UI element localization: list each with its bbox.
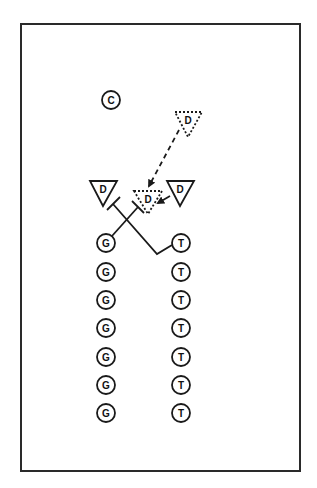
guard-marker: G: [97, 291, 115, 309]
guard-marker: G: [97, 319, 115, 337]
guard-marker: G: [97, 234, 115, 252]
svg-text:G: G: [102, 267, 110, 278]
tackle-marker: T: [172, 263, 190, 281]
svg-text:D: D: [99, 184, 106, 195]
svg-text:T: T: [178, 267, 184, 278]
defender-start-position: D: [175, 112, 202, 137]
guard-marker: G: [97, 263, 115, 281]
tackle-marker: T: [172, 348, 190, 366]
defender-right: D: [167, 181, 194, 206]
coach-label: C: [107, 95, 114, 106]
svg-text:T: T: [178, 238, 184, 249]
svg-text:D: D: [144, 194, 151, 205]
svg-text:D: D: [176, 184, 183, 195]
guards-column: G G G G G G G: [97, 234, 115, 422]
tackle-block-route: [107, 197, 172, 254]
tackle-marker: T: [172, 376, 190, 394]
drill-diagram: C D D D D G G G G G G G: [0, 0, 317, 488]
tackle-marker: T: [172, 291, 190, 309]
coach-marker: C: [102, 91, 120, 109]
defender-slide-route: [158, 196, 170, 203]
defender-left: D: [90, 181, 117, 206]
svg-text:G: G: [102, 380, 110, 391]
guard-marker: G: [97, 404, 115, 422]
tackles-column: T T T T T T T: [172, 234, 190, 422]
svg-text:G: G: [102, 408, 110, 419]
tackle-marker: T: [172, 234, 190, 252]
svg-text:G: G: [102, 295, 110, 306]
svg-text:G: G: [102, 323, 110, 334]
svg-text:T: T: [178, 323, 184, 334]
svg-text:G: G: [102, 238, 110, 249]
svg-text:D: D: [184, 115, 191, 126]
svg-text:T: T: [178, 295, 184, 306]
guard-block-route: [112, 201, 144, 236]
tackle-marker: T: [172, 319, 190, 337]
svg-text:T: T: [178, 380, 184, 391]
defender-drop-route: [149, 130, 179, 186]
svg-text:T: T: [178, 352, 184, 363]
guard-marker: G: [97, 376, 115, 394]
guard-marker: G: [97, 348, 115, 366]
field-border: [21, 24, 300, 471]
svg-text:G: G: [102, 352, 110, 363]
svg-text:T: T: [178, 408, 184, 419]
tackle-marker: T: [172, 404, 190, 422]
